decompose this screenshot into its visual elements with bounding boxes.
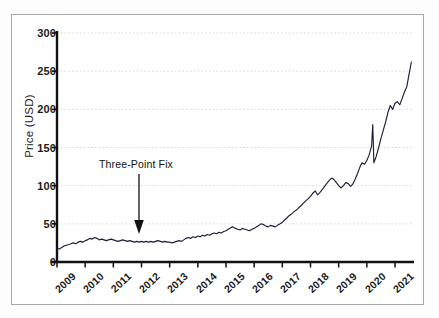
plot-canvas [0, 0, 439, 318]
price-series-line [57, 62, 411, 249]
gridlines [57, 33, 414, 224]
chart-root: Price (USD) 300 250 200 150 100 50 0 200… [0, 0, 439, 318]
down-arrow-icon [134, 174, 144, 234]
